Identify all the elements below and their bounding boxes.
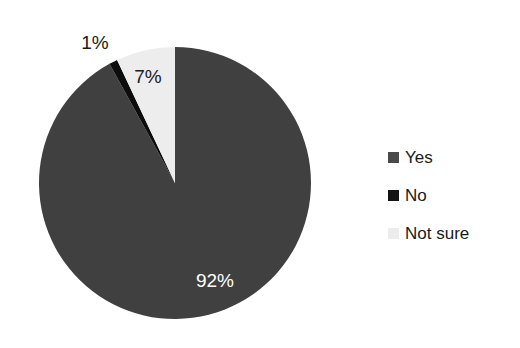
legend-swatch-icon-not-sure [388, 228, 399, 239]
legend-item-yes[interactable]: Yes [388, 138, 508, 176]
legend-label-no: No [405, 187, 427, 204]
pie-label-no: 1% [81, 32, 109, 53]
pie-chart: 92% 1% 7% Yes No Not sure [0, 0, 520, 348]
pie-label-not-sure: 7% [134, 66, 162, 87]
legend-item-not-sure[interactable]: Not sure [388, 214, 508, 252]
legend-swatch-icon-no [388, 190, 399, 201]
pie-label-yes: 92% [196, 270, 234, 291]
legend-swatch-icon-yes [388, 152, 399, 163]
legend-label-not-sure: Not sure [405, 225, 469, 242]
chart-legend: Yes No Not sure [388, 138, 508, 252]
legend-item-no[interactable]: No [388, 176, 508, 214]
legend-label-yes: Yes [405, 149, 433, 166]
